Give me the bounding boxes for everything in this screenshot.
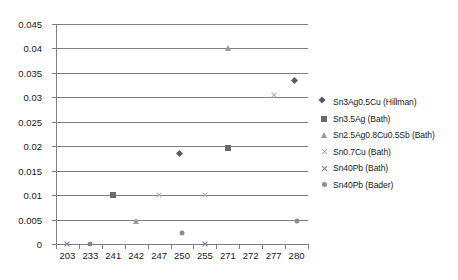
y-tick-mark <box>52 97 56 98</box>
legend-label: Sn3.5Ag (Bath) <box>333 114 390 124</box>
legend-marker-square-icon <box>318 113 330 125</box>
legend-label: Sn40Pb (Bath) <box>333 163 388 173</box>
x-tick-mark <box>262 245 263 249</box>
x-tick-mark <box>56 245 57 249</box>
x-tick-mark <box>216 245 217 249</box>
x-tick-label: 203 <box>60 250 76 261</box>
legend-item[interactable]: Sn2.5Ag0.8Cu0.5Sb (Bath) <box>318 127 456 144</box>
x-tick-mark <box>148 245 149 249</box>
x-tick-label: 233 <box>82 250 98 261</box>
x-tick-mark <box>308 245 309 249</box>
legend-label: Sn2.5Ag0.8Cu0.5Sb (Bath) <box>333 130 435 140</box>
y-tick-mark <box>52 171 56 172</box>
y-tick-mark <box>52 220 56 221</box>
x-tick-label: 250 <box>174 250 190 261</box>
x-tick-mark <box>239 245 240 249</box>
x-tick-label: 277 <box>266 250 282 261</box>
legend-label: Sn0.7Cu (Bath) <box>333 147 391 157</box>
x-tick-mark <box>193 245 194 249</box>
y-tick-mark <box>52 195 56 196</box>
y-tick-mark <box>52 122 56 123</box>
legend-item[interactable]: Sn40Pb (Bath) <box>318 160 456 177</box>
y-tick-mark <box>52 244 56 245</box>
legend-label: Sn3Ag0.5Cu (Hillman) <box>333 97 417 107</box>
x-tick-mark <box>79 245 80 249</box>
legend-marker-diamond-icon <box>318 96 330 108</box>
chart-legend: Sn3Ag0.5Cu (Hillman)Sn3.5Ag (Bath)Sn2.5A… <box>318 94 456 193</box>
y-tick-mark <box>52 48 56 49</box>
legend-item[interactable]: Sn0.7Cu (Bath) <box>318 144 456 161</box>
x-tick-label: 255 <box>197 250 213 261</box>
x-tick-label: 271 <box>220 250 236 261</box>
scatter-chart: 00.0050.010.0150.020.0250.030.0350.040.0… <box>0 0 458 280</box>
legend-marker-circle-icon <box>318 179 330 191</box>
x-tick-mark <box>125 245 126 249</box>
y-tick-mark <box>52 24 56 25</box>
y-tick-mark <box>52 73 56 74</box>
x-tick-label: 242 <box>128 250 144 261</box>
x-tick-mark <box>285 245 286 249</box>
legend-item[interactable]: Sn40Pb (Bader) <box>318 177 456 194</box>
x-tick-label: 280 <box>289 250 305 261</box>
x-tick-label: 241 <box>105 250 121 261</box>
legend-label: Sn40Pb (Bader) <box>333 180 393 190</box>
legend-item[interactable]: Sn3Ag0.5Cu (Hillman) <box>318 94 456 111</box>
x-tick-mark <box>102 245 103 249</box>
legend-marker-cross-dark-icon <box>318 162 330 174</box>
legend-marker-triangle-icon <box>318 129 330 141</box>
x-tick-label: 247 <box>151 250 167 261</box>
x-tick-label: 272 <box>243 250 259 261</box>
legend-marker-cross-light-icon <box>318 146 330 158</box>
legend-item[interactable]: Sn3.5Ag (Bath) <box>318 111 456 128</box>
y-tick-mark <box>52 146 56 147</box>
x-tick-mark <box>171 245 172 249</box>
